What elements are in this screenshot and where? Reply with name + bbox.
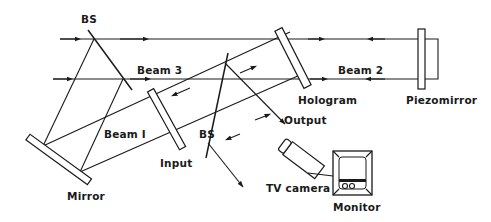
beam2-label: Beam 2 [338,64,383,76]
bs-center-label: BS [199,128,215,140]
mirror [26,134,92,184]
tv-camera [277,138,324,179]
beam1-label: Beam I [104,128,146,140]
tv-camera-label: TV camera [266,182,330,194]
input-plate [148,89,186,150]
output-ray [225,63,285,124]
piezomirror-housing [425,39,438,79]
beam3-label: Beam 3 [137,64,182,76]
mirror-label: Mirror [67,190,105,202]
hologram-label: Hologram [298,94,357,106]
output-label: Output [284,114,327,126]
bs-top-label: BS [81,13,97,25]
input-label: Input [160,157,192,169]
piezomirror-label: Piezomirror [406,94,477,106]
monitor-label: Monitor [333,201,381,213]
beam1-upper [43,32,290,146]
monitor [333,151,372,195]
piezomirror-plate [418,29,425,89]
bs-output-ray [208,143,243,187]
optical-diagram [0,0,491,222]
